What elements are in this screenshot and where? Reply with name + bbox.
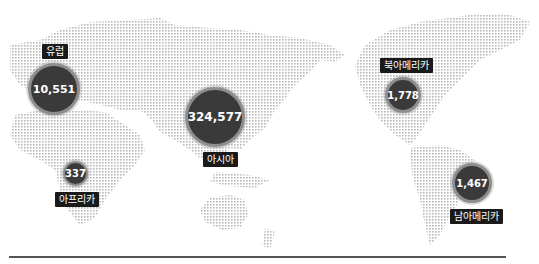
region-bubble-south-america[interactable]: 1,467 — [452, 163, 492, 203]
region-value-south-america: 1,467 — [456, 178, 488, 189]
region-bubble-north-america[interactable]: 1,778 — [385, 77, 421, 113]
region-value-north-america: 1,778 — [387, 90, 419, 101]
dotted-world-map — [0, 0, 539, 264]
region-bubble-africa[interactable]: 337 — [63, 161, 88, 186]
region-label-south-america: 남아메리카 — [450, 209, 503, 224]
australia-shape — [200, 195, 248, 230]
region-label-asia: 아시아 — [203, 152, 238, 167]
region-label-africa: 아프리카 — [55, 192, 99, 207]
region-value-africa: 337 — [65, 168, 86, 179]
region-bubble-asia[interactable]: 324,577 — [185, 87, 245, 147]
bottom-divider — [9, 256, 506, 258]
region-bubble-europe[interactable]: 10,551 — [28, 63, 80, 115]
region-value-asia: 324,577 — [188, 110, 243, 124]
region-value-europe: 10,551 — [33, 83, 75, 96]
region-label-north-america: 북아메리카 — [380, 58, 433, 73]
region-label-europe: 유럽 — [42, 44, 68, 59]
nz-shape — [262, 228, 275, 248]
se-asia-shape — [210, 172, 270, 188]
north-america-shape — [355, 15, 530, 145]
